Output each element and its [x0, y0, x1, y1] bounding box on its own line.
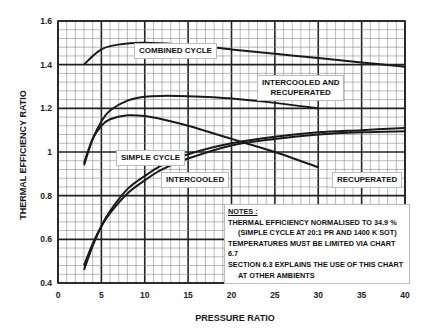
svg-text:20: 20 [227, 290, 237, 300]
svg-text:15: 15 [183, 290, 193, 300]
notes-box: NOTES : THERMAL EFFICIENCY NORMALISED TO… [224, 204, 410, 284]
svg-text:0.4: 0.4 [40, 278, 52, 288]
notes-heading: NOTES : [228, 207, 406, 218]
curve-combined-cycle [84, 43, 405, 67]
x-axis-title: PRESSURE RATIO [180, 313, 290, 323]
notes-line-3: TEMPERATURES MUST BE LIMITED VIA CHART 6… [228, 239, 406, 260]
y-axis-title: THERMAL EFFICIENCY RATIO [18, 90, 28, 220]
label-combined-cycle: COMBINED CYCLE [134, 43, 217, 59]
label-icr-line1: INTERCOOLED AND [262, 78, 339, 88]
label-intercooled-recuperated: INTERCOOLED AND RECUPERATED [257, 75, 344, 101]
svg-text:0.6: 0.6 [40, 234, 52, 244]
svg-text:30: 30 [314, 290, 324, 300]
svg-text:1.2: 1.2 [40, 103, 52, 113]
svg-text:40: 40 [400, 290, 410, 300]
notes-line-2: (SIMPLE CYCLE AT 20:1 PR AND 1400 K SOT) [228, 228, 406, 239]
svg-text:10: 10 [140, 290, 150, 300]
svg-text:5: 5 [99, 290, 104, 300]
svg-text:0: 0 [56, 290, 61, 300]
svg-text:25: 25 [270, 290, 280, 300]
notes-line-1: THERMAL EFFICIENCY NORMALISED TO 34.9 % [228, 218, 406, 229]
svg-text:35: 35 [357, 290, 367, 300]
svg-text:0.8: 0.8 [40, 191, 52, 201]
svg-text:1.6: 1.6 [40, 16, 52, 26]
label-intercooled: INTERCOOLED [161, 172, 229, 188]
notes-line-5: AT OTHER AMBIENTS [228, 271, 406, 282]
chart-canvas: 05101520253035400.40.60.811.21.41.6 [0, 0, 443, 336]
svg-text:1: 1 [47, 147, 52, 157]
label-simple-cycle: SIMPLE CYCLE [116, 150, 185, 166]
label-icr-line2: RECUPERATED [262, 88, 339, 98]
label-recuperated: RECUPERATED [332, 172, 402, 188]
notes-line-4: SECTION 6.3 EXPLAINS THE USE OF THIS CHA… [228, 260, 406, 271]
svg-text:1.4: 1.4 [40, 60, 52, 70]
